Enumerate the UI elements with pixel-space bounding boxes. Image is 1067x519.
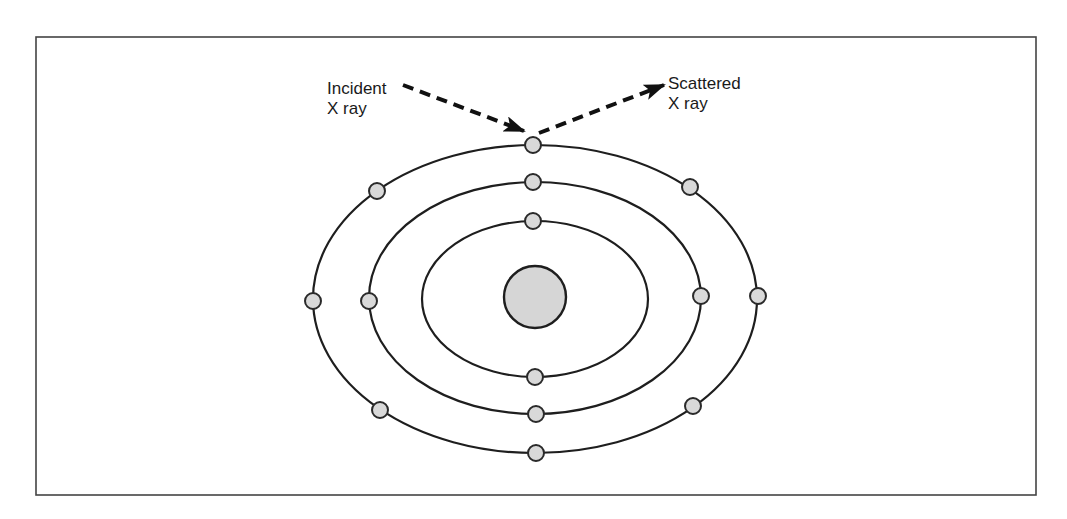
electron-icon <box>528 445 544 461</box>
atom-scattering-diagram: Incident X ray Scattered X ray <box>0 0 1067 519</box>
electron-icon <box>369 183 385 199</box>
scattered-label-line2: X ray <box>668 94 708 113</box>
scattered-ray-arrow-icon <box>539 85 664 133</box>
electron-icon <box>361 293 377 309</box>
electron-icon <box>305 293 321 309</box>
electron-icon <box>527 369 543 385</box>
electron-icon <box>685 398 701 414</box>
scattered-label: Scattered X ray <box>668 74 746 113</box>
electron-icon <box>525 174 541 190</box>
incident-label: Incident X ray <box>327 79 391 118</box>
electron-icon <box>525 213 541 229</box>
incident-label-line2: X ray <box>327 99 367 118</box>
ray-group <box>403 85 664 133</box>
nucleus-icon <box>504 266 566 328</box>
electron-icon <box>750 288 766 304</box>
electron-icon <box>525 137 541 153</box>
electron-icon <box>693 288 709 304</box>
incident-ray-arrow-icon <box>403 85 524 131</box>
scattered-label-line1: Scattered <box>668 74 741 93</box>
incident-label-line1: Incident <box>327 79 387 98</box>
electron-icon <box>682 179 698 195</box>
electron-icon <box>372 402 388 418</box>
electron-icon <box>528 406 544 422</box>
